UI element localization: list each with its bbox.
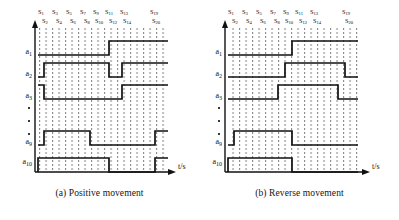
x-axis-arrow [168,169,176,175]
y-axis-arrow [222,20,228,28]
grid-field [38,28,168,172]
caption-panel-a: (a) Positive movement [0,188,199,198]
panel-reverse-movement: S1 S3 S5 S7 S9 S11 S13 S19 S2 S4 S6 S8 S… [200,0,399,220]
panel-b-plot [200,0,399,188]
figure-container: S1 S3 S5 S7 S9 S11 S13 S19 S2 S4 S6 S8 S… [0,0,399,220]
panel-a-plot [0,0,199,188]
caption-panel-b: (b) Reverse movement [200,188,399,198]
panel-positive-movement: S1 S3 S5 S7 S9 S11 S13 S19 S2 S4 S6 S8 S… [0,0,199,220]
grid-field [228,28,358,172]
y-axis-arrow [32,20,38,28]
x-axis-arrow [362,169,370,175]
